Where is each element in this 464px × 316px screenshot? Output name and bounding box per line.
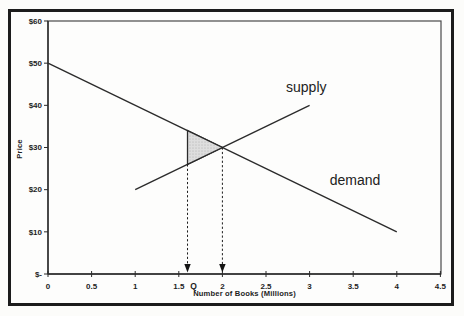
x-tick-label: 0.5 (86, 282, 98, 291)
y-tick-label: $60 (29, 17, 43, 26)
x-tick-label: 4 (395, 282, 400, 291)
x-tick-label: 3 (307, 282, 312, 291)
y-tick-label: $40 (29, 101, 43, 110)
down-arrowhead (184, 264, 190, 273)
y-tick-label: $50 (29, 59, 43, 68)
y-tick-label: $30 (29, 143, 43, 152)
y-axis-title: Price (15, 139, 24, 158)
supply-line-label: supply (286, 79, 326, 95)
down-arrowhead (219, 264, 225, 273)
x-tick-label: 1 (133, 282, 138, 291)
x-tick-label: 3.5 (348, 282, 360, 291)
y-tick-label: $10 (29, 228, 43, 237)
x-tick-label: 0 (46, 282, 51, 291)
demand-line-label: demand (330, 172, 381, 188)
x-tick-label: 4.5 (435, 282, 447, 291)
y-tick-label: $- (35, 270, 42, 279)
figure: $-$10$20$30$40$50$6000.511.522.533.544.5… (0, 0, 464, 316)
x-axis-title: Number of Books (Millions) (193, 289, 296, 298)
y-tick-label: $20 (29, 185, 43, 194)
x-tick-label: 1.5 (173, 282, 185, 291)
plot-border (48, 21, 441, 274)
supply-demand-chart: $-$10$20$30$40$50$6000.511.522.533.544.5… (0, 0, 464, 316)
restricted-quantity-label: Q (190, 281, 197, 291)
deadweight-loss-triangle (188, 131, 223, 165)
